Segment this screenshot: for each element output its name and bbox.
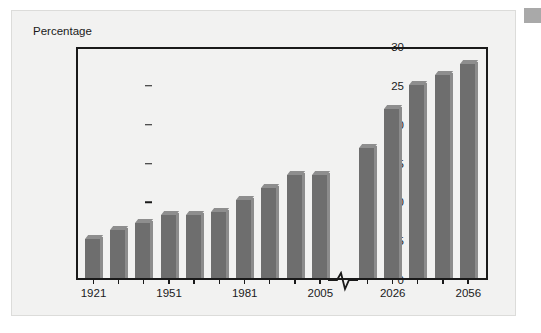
x-axis-line	[76, 278, 488, 280]
bar	[186, 215, 201, 278]
y-axis-label: Percentage	[33, 25, 92, 37]
x-tick-mark	[244, 280, 246, 284]
y-tick-mark	[145, 202, 152, 204]
bar-side-face	[327, 173, 330, 278]
figure-canvas: Percentage 051015202530 1921195119812005…	[0, 0, 541, 333]
x-tick-mark	[118, 280, 120, 284]
x-tick-mark	[442, 280, 444, 284]
bar-side-face	[302, 173, 305, 278]
plot-border-right	[486, 47, 488, 280]
y-tick-label: 25	[391, 80, 404, 92]
bar-side-face	[475, 62, 478, 278]
bar-side-face	[176, 213, 179, 278]
bar	[435, 75, 450, 278]
bar	[110, 230, 125, 278]
x-tick-mark	[319, 280, 321, 284]
x-tick-mark	[193, 280, 195, 284]
bar	[161, 215, 176, 278]
x-tick-mark	[467, 280, 469, 284]
x-tick-label: 2056	[456, 287, 482, 299]
x-tick-label: 2026	[380, 287, 406, 299]
y-tick-label: 30	[391, 41, 404, 53]
x-tick-label: 1921	[81, 287, 107, 299]
bar	[261, 188, 276, 278]
bar	[287, 175, 302, 278]
x-tick-mark	[143, 280, 145, 284]
bar	[409, 85, 424, 278]
bar-side-face	[125, 228, 128, 278]
x-tick-label: 1981	[232, 287, 258, 299]
x-tick-mark	[93, 280, 95, 284]
y-tick-mark	[145, 124, 152, 126]
x-tick-mark	[269, 280, 271, 284]
corner-marker	[524, 8, 541, 23]
y-tick-mark	[145, 163, 152, 165]
bar	[211, 212, 226, 278]
bar-side-face	[201, 213, 204, 278]
bar-side-face	[251, 198, 254, 278]
x-tick-mark	[392, 280, 394, 284]
bar-side-face	[150, 221, 153, 278]
x-tick-mark	[168, 280, 170, 284]
bar-side-face	[374, 146, 377, 278]
bar	[384, 109, 399, 278]
bar-side-face	[399, 107, 402, 278]
plot-border-top	[76, 47, 488, 49]
y-tick-mark	[145, 85, 152, 87]
x-tick-label: 1951	[156, 287, 182, 299]
bar	[85, 239, 100, 278]
bar	[236, 200, 251, 278]
bar	[359, 148, 374, 278]
bar	[460, 64, 475, 278]
bar-side-face	[226, 210, 229, 278]
bar	[135, 223, 150, 278]
x-tick-mark	[417, 280, 419, 284]
bar	[312, 175, 327, 278]
bar-side-face	[424, 83, 427, 278]
axis-break-icon	[328, 271, 358, 295]
bar-side-face	[450, 73, 453, 278]
bar-side-face	[100, 237, 103, 278]
y-axis-line	[76, 47, 78, 280]
x-tick-mark	[367, 280, 369, 284]
bar-side-face	[276, 186, 279, 278]
x-tick-mark	[219, 280, 221, 284]
x-tick-mark	[294, 280, 296, 284]
plot-area: 051015202530 192119511981200520262056	[76, 47, 488, 280]
